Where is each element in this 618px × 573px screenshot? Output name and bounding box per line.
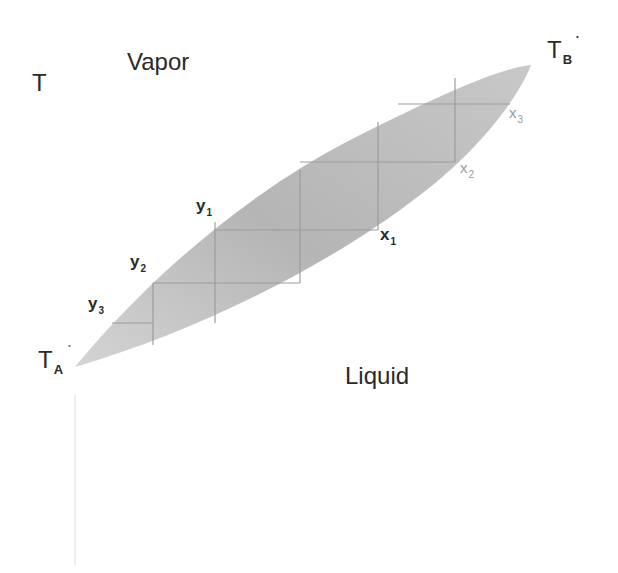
liquid-point-x1: x1 [380, 225, 396, 245]
two-phase-lens [75, 65, 531, 367]
vapor-region-label: Vapor [127, 48, 189, 76]
y1-main: y [196, 196, 205, 215]
tb-star-mark: • [576, 32, 579, 41]
liquid-region-label: Liquid [345, 362, 409, 390]
ta-boiling-point-label: TA [38, 346, 63, 374]
liquid-point-x2: x2 [460, 159, 474, 176]
tb-main: T [547, 36, 562, 63]
temperature-axis-label: T [32, 69, 47, 97]
y2-sub: 2 [140, 263, 146, 274]
vapor-point-y1: y1 [196, 196, 212, 216]
x2-main: x [460, 159, 468, 176]
ta-sub: A [54, 362, 63, 377]
x1-main: x [380, 225, 389, 244]
ta-main: T [38, 346, 53, 373]
x2-sub: 2 [469, 169, 475, 180]
y1-sub: 1 [206, 207, 212, 218]
liquid-point-x3: x3 [509, 104, 523, 121]
ta-star-mark: • [68, 341, 71, 350]
x3-main: x [509, 104, 517, 121]
y3-sub: 3 [98, 305, 104, 316]
y3-main: y [88, 294, 97, 313]
tb-boiling-point-label: TB [547, 36, 572, 64]
x3-sub: 3 [518, 114, 524, 125]
vapor-point-y2: y2 [130, 252, 146, 272]
x1-sub: 1 [390, 236, 396, 247]
vapor-point-y3: y3 [88, 294, 104, 314]
phase-diagram-canvas [0, 0, 618, 573]
tb-sub: B [563, 52, 572, 67]
y2-main: y [130, 252, 139, 271]
